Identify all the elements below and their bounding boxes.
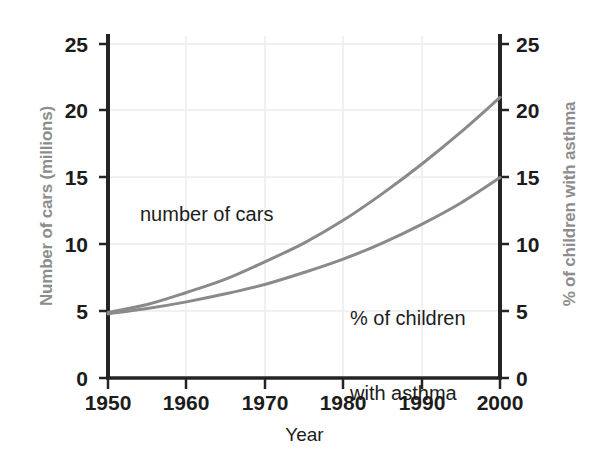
y-tick-right-25: 25: [516, 34, 560, 55]
y-tick-left-25: 25: [44, 34, 88, 55]
x-tick-1970: 1970: [225, 392, 305, 413]
annotation-asthma-line1: % of children: [350, 306, 466, 331]
annotation-percent-asthma: % of children with asthma: [350, 256, 466, 456]
y-tick-left-15: 15: [44, 167, 88, 188]
y-tick-right-20: 20: [516, 100, 560, 121]
y-tick-right-5: 5: [516, 301, 560, 322]
y-axis-right-title: % of children with asthma: [560, 49, 580, 359]
y-tick-left-10: 10: [44, 234, 88, 255]
x-tick-1950: 1950: [68, 392, 148, 413]
y-tick-right-0: 0: [516, 368, 560, 389]
x-tick-1960: 1960: [146, 392, 226, 413]
chart-figure: Number of cars (millions) % of children …: [0, 0, 609, 469]
annotation-number-of-cars: number of cars: [140, 202, 273, 227]
y-tick-right-10: 10: [516, 234, 560, 255]
y-tick-left-20: 20: [44, 100, 88, 121]
x-tick-2000: 2000: [460, 392, 540, 413]
y-tick-right-15: 15: [516, 167, 560, 188]
y-tick-left-0: 0: [44, 368, 88, 389]
y-tick-left-5: 5: [44, 301, 88, 322]
annotation-asthma-line2: with asthma: [350, 381, 466, 406]
x-axis-title: Year: [0, 424, 609, 446]
